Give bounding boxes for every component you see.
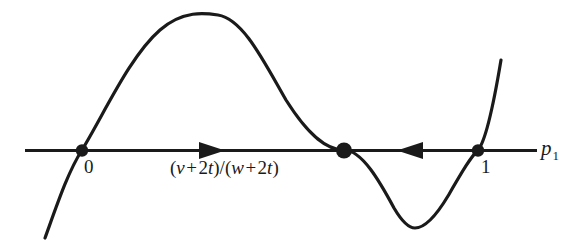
formula-var-w: w	[231, 157, 244, 178]
equilibrium-dot-interior	[336, 143, 352, 159]
axis-label-p1: p1	[541, 138, 559, 162]
formula-digit-2-a: 2	[198, 157, 208, 178]
arrow-leftward-icon	[397, 142, 423, 159]
cubic-curve	[45, 14, 501, 238]
axis-label-subscript: 1	[552, 148, 560, 163]
formula-two-t-2: 2t	[258, 157, 273, 178]
formula-digit-2-b: 2	[258, 157, 268, 178]
formula-two-t-1: 2t	[198, 157, 213, 178]
equilibrium-label-zero: 0	[84, 157, 94, 176]
formula-var-v: v	[176, 157, 184, 178]
equilibrium-dot-one	[472, 144, 484, 156]
figure-canvas	[0, 0, 581, 252]
equilibrium-label-one: 1	[481, 157, 491, 176]
formula-plus-2: +	[244, 157, 258, 178]
phase-line-figure: 0 (v+2t)/(w+2t) 1 p1	[0, 0, 581, 252]
equilibrium-dot-zero	[76, 144, 88, 156]
formula-close-paren-2: )	[272, 157, 278, 178]
formula-plus-1: +	[185, 157, 199, 178]
equilibrium-label-interior: (v+2t)/(w+2t)	[170, 158, 279, 177]
axis-label-variable: p	[541, 136, 552, 160]
